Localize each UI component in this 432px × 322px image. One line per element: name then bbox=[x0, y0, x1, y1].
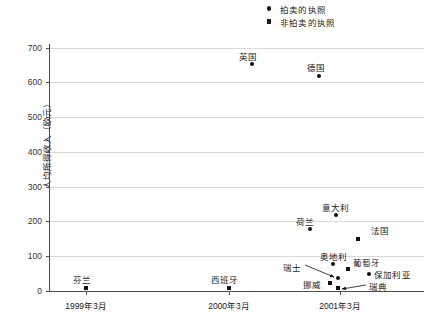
annotation-leader-lines bbox=[0, 0, 432, 322]
leader-switzerland bbox=[305, 265, 334, 277]
scatter-chart: 拍卖的执照 非拍卖的执照 人均所得收入（欧元） 700 600 500 400 … bbox=[0, 0, 432, 322]
leader-sweden bbox=[342, 285, 366, 289]
